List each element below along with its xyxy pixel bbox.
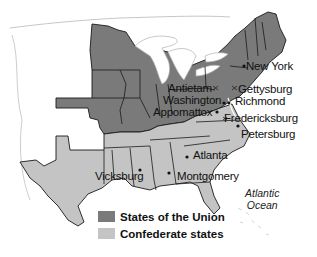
city-label-antietam: Antietam bbox=[168, 83, 212, 95]
map-legend: States of the Union Confederate states bbox=[98, 208, 225, 242]
city-label-new-york: New York bbox=[246, 61, 293, 73]
ocean-label: Atlantic Ocean bbox=[245, 188, 279, 211]
legend-label-union: States of the Union bbox=[120, 211, 225, 223]
ocean-label-line1: Atlantic bbox=[245, 188, 279, 200]
city-label-petersburg: Petersburg bbox=[241, 129, 295, 141]
city-label-fredericksburg: Fredericksburg bbox=[224, 113, 298, 125]
ocean-label-line2: Ocean bbox=[245, 200, 279, 212]
union-swatch bbox=[98, 211, 115, 222]
legend-item-confederate: Confederate states bbox=[98, 225, 225, 242]
confederate-swatch bbox=[98, 228, 115, 239]
city-label-washington: Washington bbox=[163, 95, 221, 107]
city-label-vicksburg: Vicksburg bbox=[95, 171, 144, 183]
legend-item-union: States of the Union bbox=[98, 208, 225, 225]
city-label-atlanta: Atlanta bbox=[193, 150, 227, 162]
legend-label-confederate: Confederate states bbox=[120, 228, 224, 240]
city-label-richmond: Richmond bbox=[235, 96, 285, 108]
city-label-appomattox: Appomattox bbox=[153, 107, 212, 119]
city-label-gettysburg: Gettysburg bbox=[238, 84, 292, 96]
city-label-montgomery: Montgomery bbox=[177, 171, 239, 183]
